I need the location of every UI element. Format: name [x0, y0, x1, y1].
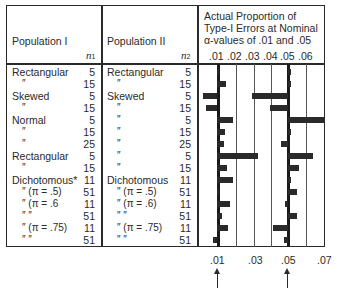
n2-cell: 15: [169, 78, 191, 90]
pop2-cell: Rectangular: [107, 66, 164, 78]
n1-cell: 11: [73, 222, 95, 234]
bar-alpha-01: [217, 201, 230, 207]
bar-alpha-05: [288, 129, 291, 135]
top-tick: .03: [245, 50, 260, 62]
bar-alpha-05: [288, 177, 291, 183]
bar-alpha-01: [217, 129, 225, 135]
pop2-cell: ″: [117, 78, 121, 90]
pop1-header: Population I: [12, 35, 67, 47]
bar-alpha-05: [288, 69, 291, 75]
n2-cell: 5: [169, 90, 191, 102]
n2-cell: 5: [169, 114, 191, 126]
bar-alpha-01: [217, 81, 226, 87]
bar-alpha-01: [217, 117, 233, 123]
gridline-04: [271, 64, 272, 247]
n2-cell: 51: [169, 234, 191, 246]
bar-alpha-01: [217, 177, 233, 183]
bar-alpha-05: [252, 93, 288, 99]
bar-alpha-01: [217, 165, 228, 171]
pop1-cell: ″ (π = .6: [22, 198, 58, 210]
column-divider-2: [197, 5, 199, 247]
bar-alpha-01: [203, 93, 217, 99]
n2-cell: 5: [169, 66, 191, 78]
pop2-cell: ″ (π = .6): [117, 198, 157, 210]
pop1-cell: Skewed: [12, 90, 49, 102]
pop1-cell: ″ ″: [22, 210, 32, 222]
bar-alpha-05: [285, 201, 288, 207]
bar-alpha-05: [288, 153, 313, 159]
bar-alpha-05: [288, 165, 299, 171]
top-tick: .06: [298, 50, 313, 62]
pop1-cell: Normal: [12, 114, 46, 126]
pop2-cell: ″: [117, 102, 121, 114]
chart-title-line1: Actual Proportion of: [204, 10, 296, 22]
n1-cell: 51: [73, 234, 95, 246]
bar-alpha-05: [288, 189, 297, 195]
n2-cell: 11: [169, 174, 191, 186]
bar-alpha-01: [217, 213, 222, 219]
bottom-tick: .05: [281, 254, 296, 266]
n2-cell: 51: [169, 186, 191, 198]
n1-cell: 5: [73, 90, 95, 102]
pop2-cell: ″: [117, 114, 121, 126]
pop2-cell: ″: [117, 126, 121, 138]
pop1-cell: ″: [22, 138, 26, 150]
n2-cell: 15: [169, 162, 191, 174]
bar-alpha-05: [270, 105, 288, 111]
pop2-cell: Dichotomous: [107, 174, 168, 186]
pop2-cell: ″ (π = .5): [117, 186, 157, 198]
chart-title-line2: Type-I Errors at Nominal: [204, 22, 318, 34]
n1-cell: 11: [73, 198, 95, 210]
n1-header: n1: [86, 49, 95, 63]
bar-alpha-01: [217, 153, 258, 159]
bar-alpha-05: [288, 81, 291, 87]
n1-cell: 11: [73, 174, 95, 186]
n1-cell: 15: [73, 78, 95, 90]
pop1-cell: ″: [22, 126, 26, 138]
bar-alpha-01: [217, 225, 229, 231]
n2-header: n2: [181, 49, 190, 63]
pop1-cell: ″: [22, 102, 26, 114]
bar-alpha-01: [217, 69, 220, 75]
n2-cell: 25: [169, 138, 191, 150]
bar-alpha-05: [284, 237, 288, 243]
pop1-cell: Rectangular: [12, 66, 69, 78]
arrow-up-icon: [287, 272, 288, 288]
pop1-cell: Rectangular: [12, 150, 69, 162]
bar-alpha-01: [206, 105, 217, 111]
top-tick: .05: [280, 50, 295, 62]
bar-alpha-01: [217, 189, 220, 195]
bottom-tick: .07: [317, 254, 332, 266]
pop1-cell: ″ ″: [22, 234, 32, 246]
n2-cell: 11: [169, 222, 191, 234]
header-divider: [6, 63, 325, 65]
bar-alpha-05: [273, 225, 288, 231]
n1-cell: 5: [73, 66, 95, 78]
n2-cell: 15: [169, 102, 191, 114]
pop2-cell: ″: [117, 150, 121, 162]
pop2-header: Population II: [107, 35, 165, 47]
n1-cell: 15: [73, 126, 95, 138]
n1-cell: 15: [73, 102, 95, 114]
pop1-cell: ″: [22, 78, 26, 90]
n1-cell: 51: [73, 186, 95, 198]
n2-cell: 5: [169, 150, 191, 162]
bottom-tick: .03: [248, 254, 263, 266]
pop1-cell: ″ (π = .5): [22, 186, 62, 198]
pop1-cell: ″ (π = .75): [22, 222, 67, 234]
top-tick: .04: [263, 50, 278, 62]
pop1-cell: ″: [22, 162, 26, 174]
bar-alpha-01: [213, 237, 217, 243]
bar-alpha-05: [281, 141, 288, 147]
n1-cell: 5: [73, 114, 95, 126]
n1-cell: 25: [73, 138, 95, 150]
n2-cell: 11: [169, 198, 191, 210]
n2-cell: 15: [169, 126, 191, 138]
n1-cell: 51: [73, 210, 95, 222]
n1-cell: 15: [73, 162, 95, 174]
n1-cell: 5: [73, 150, 95, 162]
pop2-cell: ″: [117, 162, 121, 174]
chart-title-line3: α-values of .01 and .05: [204, 34, 311, 46]
bar-alpha-05: [288, 117, 324, 123]
bar-alpha-01: [217, 141, 224, 147]
